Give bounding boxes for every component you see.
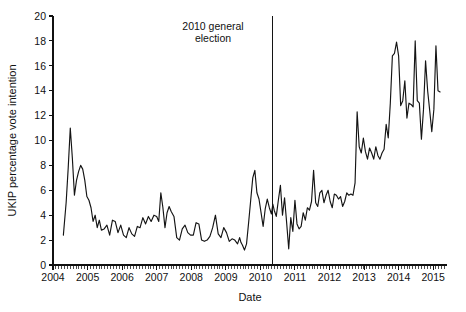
x-tick-label-2014: 2014: [387, 271, 411, 283]
x-tick-label-2015: 2015: [421, 271, 445, 283]
y-tick-label-4: 4: [40, 209, 46, 221]
ukip-vote-intention-line-chart: 02468101214161820 2004200520062007200820…: [0, 0, 466, 312]
y-axis-title: UKIP percentage vote intention: [6, 64, 18, 216]
y-tick-label-14: 14: [34, 84, 46, 96]
x-tick-label-2006: 2006: [110, 271, 134, 283]
x-tick-label-2004: 2004: [41, 271, 65, 283]
x-tick-label-2009: 2009: [214, 271, 238, 283]
y-tick-label-2: 2: [40, 234, 46, 246]
y-tick-label-20: 20: [34, 10, 46, 22]
election-annotation-line-1: 2010 general: [182, 20, 243, 32]
y-tick-label-0: 0: [40, 259, 46, 271]
x-tick-label-2013: 2013: [352, 271, 376, 283]
x-tick-label-2012: 2012: [318, 271, 342, 283]
x-tick-label-2011: 2011: [284, 271, 307, 283]
y-tick-label-12: 12: [34, 109, 46, 121]
y-tick-label-16: 16: [34, 60, 46, 72]
x-tick-label-2005: 2005: [76, 271, 100, 283]
x-tick-label-2010: 2010: [249, 271, 273, 283]
x-tick-label-2007: 2007: [145, 271, 169, 283]
x-axis-title: Date: [238, 291, 261, 303]
y-tick-label-8: 8: [40, 159, 46, 171]
y-tick-label-6: 6: [40, 184, 46, 196]
chart-figure: 02468101214161820 2004200520062007200820…: [0, 0, 466, 312]
y-tick-label-10: 10: [34, 134, 46, 146]
y-tick-label-18: 18: [34, 35, 46, 47]
x-tick-label-2008: 2008: [180, 271, 204, 283]
election-annotation-line-2: election: [195, 32, 231, 44]
